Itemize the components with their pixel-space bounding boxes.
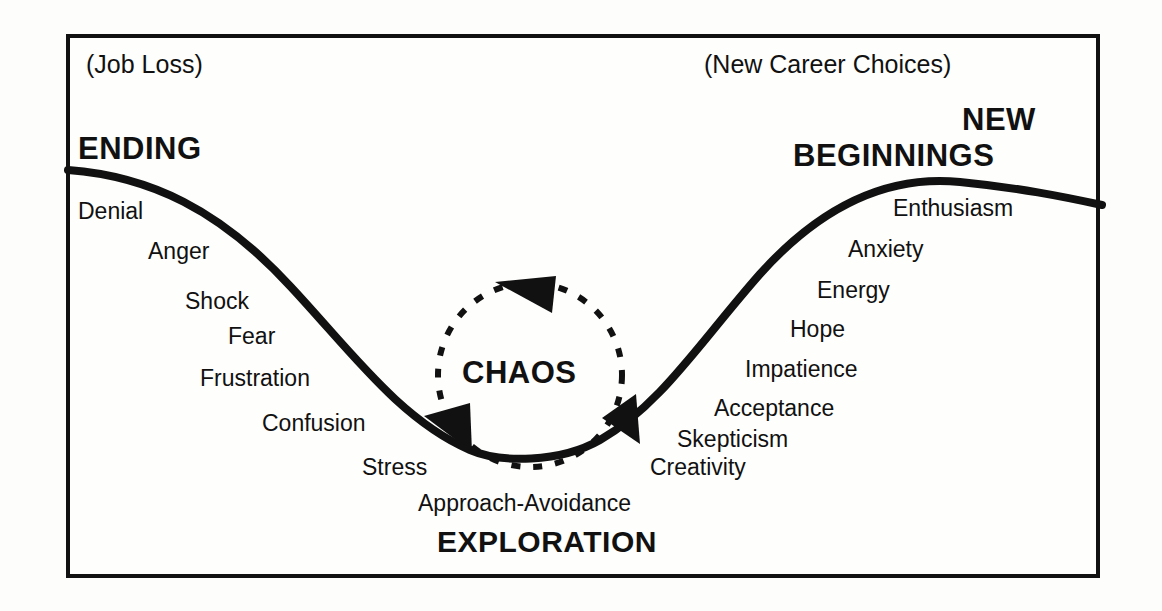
heading-new: NEW: [962, 104, 1036, 135]
label-skepticism: Skepticism: [677, 428, 788, 451]
label-impatience: Impatience: [745, 358, 858, 381]
label-anger: Anger: [148, 240, 209, 263]
label-shock: Shock: [185, 290, 249, 313]
transition-curve-diagram: (Job Loss) (New Career Choices) ENDING N…: [0, 0, 1162, 611]
label-fear: Fear: [228, 325, 275, 348]
label-hope: Hope: [790, 318, 845, 341]
heading-exploration: EXPLORATION: [437, 527, 657, 557]
label-job-loss: (Job Loss): [86, 52, 203, 77]
label-new-career-choices: (New Career Choices): [704, 52, 951, 77]
label-stress: Stress: [362, 456, 427, 479]
label-denial: Denial: [78, 200, 143, 223]
label-acceptance: Acceptance: [714, 397, 834, 420]
label-approach-avoidance: Approach-Avoidance: [418, 492, 631, 515]
label-frustration: Frustration: [200, 367, 310, 390]
label-chaos: CHAOS: [462, 357, 576, 388]
label-anxiety: Anxiety: [848, 238, 923, 261]
heading-ending: ENDING: [78, 133, 202, 164]
label-energy: Energy: [817, 279, 890, 302]
heading-beginnings: BEGINNINGS: [793, 140, 994, 171]
label-confusion: Confusion: [262, 412, 366, 435]
label-enthusiasm: Enthusiasm: [893, 197, 1013, 220]
label-creativity: Creativity: [650, 456, 746, 479]
